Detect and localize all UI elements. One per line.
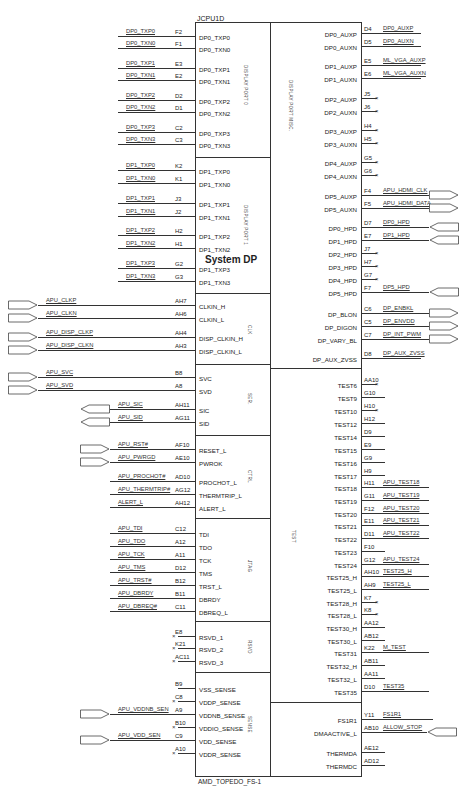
no-connect-icon: × xyxy=(375,599,379,605)
net-label: APU_CLKN xyxy=(46,310,77,317)
pin-line xyxy=(361,652,429,653)
pin-line xyxy=(361,752,385,753)
pin-line xyxy=(361,691,429,692)
pin-line xyxy=(118,48,195,49)
pin-line xyxy=(361,358,421,359)
pin-name: TEST25_L xyxy=(327,587,357,594)
pin-number: AG11 xyxy=(175,415,190,422)
net-label: FS1R1 xyxy=(383,711,401,718)
pin-name: TEST15 xyxy=(334,447,357,454)
pin-name: TEST22 xyxy=(334,536,357,543)
pin-line xyxy=(361,65,421,66)
pin-line xyxy=(361,475,385,476)
input-port-icon xyxy=(8,372,38,382)
pin-name: THERMDA xyxy=(326,750,357,757)
pin-number: C12 xyxy=(175,526,186,533)
pin-number: G5 xyxy=(364,155,372,162)
pin-line xyxy=(38,390,195,391)
pin-number: AB12 xyxy=(364,633,379,640)
pin-line xyxy=(110,494,195,495)
output-port-icon xyxy=(429,321,459,331)
net-label: TEST25_H xyxy=(383,568,412,575)
pin-number: D10 xyxy=(364,684,375,691)
pin-number: K22 xyxy=(364,645,375,652)
pin-number: D5 xyxy=(364,39,372,46)
net-label: DP_ENBKL xyxy=(383,305,413,312)
pin-name: TEST32_H xyxy=(326,663,357,670)
pin-name: DBREQ_L xyxy=(199,609,228,616)
pin-number: F1 xyxy=(175,41,182,48)
output-port-icon xyxy=(429,190,459,200)
net-label: DP0_HPD xyxy=(383,219,410,226)
pin-number: C9 xyxy=(175,733,183,740)
pin-number: K21 xyxy=(175,641,186,648)
pin-name: TEST21 xyxy=(334,523,357,530)
pin-line xyxy=(178,688,195,689)
pin-line xyxy=(38,337,195,338)
pin-line xyxy=(361,33,421,34)
net-label: M_TEST xyxy=(383,644,406,651)
input-port-icon xyxy=(8,313,38,323)
net-label: APU_PWRGD xyxy=(118,454,155,461)
pin-name: DP_VARY_BL xyxy=(318,337,357,344)
pin-line xyxy=(110,533,195,534)
pin-name: SIC xyxy=(199,407,209,414)
pin-line xyxy=(118,235,195,236)
net-label: APU_TDI xyxy=(118,525,142,532)
net-label: APU_HDMI_DATA xyxy=(383,200,431,207)
pin-line xyxy=(361,500,429,501)
net-label: APU_TEST19 xyxy=(383,492,419,499)
pin-number: D8 xyxy=(364,351,372,358)
no-connect-icon: × xyxy=(172,645,176,651)
pin-number: C2 xyxy=(175,125,183,132)
pin-line xyxy=(110,559,195,560)
pin-line xyxy=(118,216,195,217)
pin-line xyxy=(361,513,429,514)
pin-line xyxy=(118,68,195,69)
pin-name: VDDNB_SENSE xyxy=(199,712,245,719)
pin-name: DP0_TXP0 xyxy=(199,34,230,41)
net-label: TEST35 xyxy=(383,683,404,690)
pin-number: D2 xyxy=(175,93,183,100)
net-label: APU_TEST18 xyxy=(383,479,419,486)
pin-number: G6 xyxy=(364,168,372,175)
pin-number: C3 xyxy=(175,137,183,144)
net-label: ML_VGA_AUXN xyxy=(383,70,426,77)
pin-name: VSS_SENSE xyxy=(199,686,236,693)
pin-name: DP1_TXN2 xyxy=(199,246,230,253)
pin-number: G3 xyxy=(175,274,183,281)
pin-line xyxy=(110,714,195,715)
pin-number: AH7 xyxy=(175,298,187,305)
group-label-clk: CLK xyxy=(247,325,252,335)
pin-number: A10 xyxy=(175,746,186,753)
pin-number: H1 xyxy=(175,241,183,248)
pin-line xyxy=(178,661,195,662)
pin-number: B10 xyxy=(175,720,186,727)
pin-name: DP0_HPD xyxy=(328,225,357,232)
pin-line xyxy=(361,551,385,552)
pin-number: H7 xyxy=(364,259,372,266)
pin-line xyxy=(110,585,195,586)
net-label: ALERT_L xyxy=(118,499,143,506)
net-label: DP0_AUXP xyxy=(383,25,413,32)
input-port-icon xyxy=(8,345,38,355)
pin-name: DP1_AUXP xyxy=(325,63,357,70)
pin-name: TEST20 xyxy=(334,511,357,518)
pin-line xyxy=(178,727,195,728)
pin-name: DP1_AUXN xyxy=(324,76,357,83)
pin-name: TEST10 xyxy=(334,408,357,415)
pin-number: AD12 xyxy=(364,758,379,765)
pin-number: A12 xyxy=(175,539,186,546)
pin-line xyxy=(361,589,429,590)
net-label: DP1_HPD xyxy=(383,232,410,239)
group-label-ctrl: CTRL xyxy=(247,470,252,483)
net-label: DP0_TXN2 xyxy=(126,104,155,111)
pin-name: DP_BLON xyxy=(328,311,357,318)
pin-name: PROCHOT_L xyxy=(199,479,237,486)
pin-name: TEST18 xyxy=(334,485,357,492)
pin-number: E8 xyxy=(175,629,182,636)
pin-number: B11 xyxy=(175,591,185,598)
pin-name: DISP_CLKIN_L xyxy=(199,348,242,355)
pin-line xyxy=(110,572,195,573)
input-port-icon xyxy=(8,385,38,395)
